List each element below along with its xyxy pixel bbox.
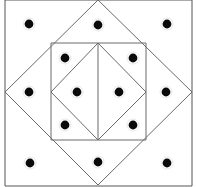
- dot-r3-c2: [73, 88, 82, 97]
- dot-r2-c1: [61, 54, 70, 63]
- figure-canvas: [0, 0, 197, 187]
- dot-r4-c1: [61, 121, 70, 130]
- dot-r2-c2: [129, 54, 138, 63]
- dot-r4-c2: [129, 121, 138, 130]
- dot-r3-c3: [115, 88, 124, 97]
- dot-r1-c2: [94, 21, 103, 30]
- dot-r3-c4: [162, 88, 171, 97]
- dot-r5-c3: [163, 159, 172, 168]
- dot-r5-c1: [26, 159, 35, 168]
- dot-r5-c2: [94, 158, 103, 167]
- dot-r1-c3: [163, 20, 172, 29]
- dot-r3-c1: [25, 88, 34, 97]
- geometric-figure: [0, 0, 197, 187]
- dot-r1-c1: [25, 20, 34, 29]
